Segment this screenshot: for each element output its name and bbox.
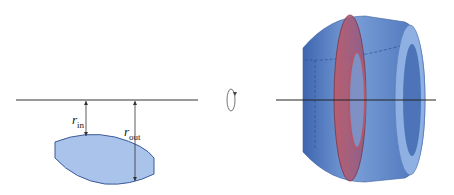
region-shape bbox=[55, 134, 154, 184]
r-out-label: rout bbox=[124, 124, 141, 142]
r-in-label: rin bbox=[72, 112, 84, 130]
diagram-canvas bbox=[0, 0, 454, 195]
